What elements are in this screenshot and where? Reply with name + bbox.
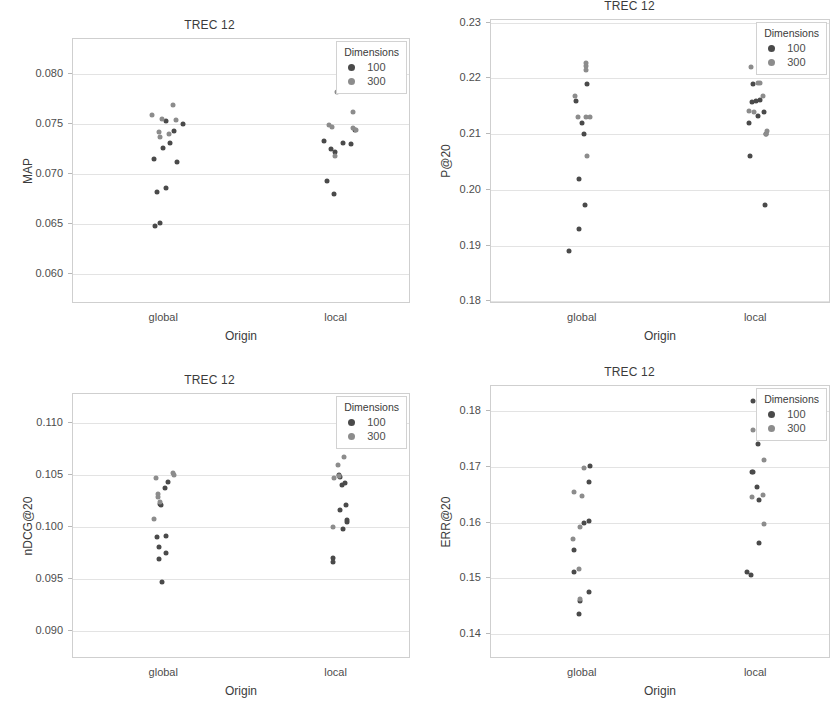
legend-label: 100	[787, 42, 811, 54]
legend-entry-100[interactable]: 100	[344, 415, 399, 429]
data-point	[157, 544, 162, 549]
gridline	[73, 475, 409, 476]
data-point	[572, 94, 577, 99]
data-point	[160, 580, 165, 585]
data-point	[751, 399, 756, 404]
ytick-label: 0.060	[35, 267, 63, 279]
data-point	[749, 65, 754, 70]
data-point	[575, 115, 580, 120]
legend-swatch	[764, 425, 778, 432]
data-point	[340, 527, 345, 532]
data-point	[152, 516, 157, 521]
data-point	[750, 495, 755, 500]
data-point	[756, 441, 761, 446]
legend-entry-100[interactable]: 100	[344, 60, 399, 74]
data-point	[757, 497, 762, 502]
legend-label: 300	[787, 56, 811, 68]
xtick-label-local: local	[744, 311, 767, 323]
ytick-label: 0.070	[35, 167, 63, 179]
data-point	[586, 480, 591, 485]
legend-swatch	[344, 78, 358, 85]
gridline	[491, 578, 829, 579]
legend-label: 100	[367, 61, 391, 73]
gridline	[73, 527, 409, 528]
ytick-mark	[68, 422, 72, 423]
data-point	[332, 154, 337, 159]
ytick-mark	[486, 577, 490, 578]
gridline	[491, 634, 829, 635]
data-point	[163, 485, 168, 490]
legend-entry-300[interactable]: 300	[344, 74, 399, 88]
ytick-mark	[486, 410, 490, 411]
y-axis-label: nDCG@20	[21, 466, 35, 586]
data-point	[579, 493, 584, 498]
legend-dot-300	[768, 59, 775, 66]
data-point	[174, 118, 179, 123]
ytick-label: 0.16	[460, 516, 481, 528]
xtick-label-local: local	[324, 311, 347, 323]
data-point	[576, 567, 581, 572]
data-point	[324, 179, 329, 184]
data-point	[331, 192, 336, 197]
legend: Dimensions100300	[756, 388, 827, 441]
panel-title: TREC 12	[420, 365, 839, 379]
legend-swatch	[344, 64, 358, 71]
ytick-mark	[486, 22, 490, 23]
data-point	[571, 489, 576, 494]
data-point	[168, 141, 173, 146]
legend-entry-300[interactable]: 300	[764, 421, 819, 435]
data-point	[164, 534, 169, 539]
gridline	[73, 274, 409, 275]
legend-dot-100	[348, 64, 355, 71]
ytick-label: 0.065	[35, 217, 63, 229]
data-point	[757, 541, 762, 546]
data-point	[158, 221, 163, 226]
ytick-label: 0.20	[460, 183, 481, 195]
data-point	[584, 154, 589, 159]
ytick-mark	[486, 77, 490, 78]
data-point	[152, 157, 157, 162]
legend-entry-100[interactable]: 100	[764, 41, 819, 55]
legend-title: Dimensions	[344, 401, 399, 413]
legend-title: Dimensions	[764, 393, 819, 405]
data-point	[154, 476, 159, 481]
legend-entry-300[interactable]: 300	[764, 55, 819, 69]
data-point	[584, 82, 589, 87]
y-axis-label: ERR@20	[439, 462, 453, 582]
data-point	[762, 522, 767, 527]
gridline	[491, 246, 829, 247]
data-point	[343, 503, 348, 508]
ytick-mark	[486, 133, 490, 134]
gridline	[73, 224, 409, 225]
ytick-label: 0.090	[35, 624, 63, 636]
data-point	[570, 537, 575, 542]
data-point	[157, 557, 162, 562]
data-point	[172, 129, 177, 134]
gridline	[491, 523, 829, 524]
gridline	[491, 467, 829, 468]
data-point	[571, 547, 576, 552]
gridline	[491, 190, 829, 191]
data-point	[322, 139, 327, 144]
data-point	[175, 160, 180, 165]
legend-label: 100	[367, 416, 391, 428]
x-axis-label: Origin	[644, 329, 676, 343]
ytick-label: 0.22	[460, 71, 481, 83]
data-point	[158, 135, 163, 140]
ytick-label: 0.105	[35, 468, 63, 480]
data-point	[164, 186, 169, 191]
data-point	[587, 115, 592, 120]
data-point	[150, 113, 155, 118]
data-point	[587, 463, 592, 468]
legend-entry-300[interactable]: 300	[344, 429, 399, 443]
ytick-mark	[486, 245, 490, 246]
data-point	[341, 455, 346, 460]
data-point	[586, 590, 591, 595]
data-point	[752, 109, 757, 114]
data-point	[577, 597, 582, 602]
data-point	[330, 560, 335, 565]
data-point	[161, 146, 166, 151]
data-point	[353, 128, 358, 133]
legend-entry-100[interactable]: 100	[764, 407, 819, 421]
data-point	[344, 519, 349, 524]
